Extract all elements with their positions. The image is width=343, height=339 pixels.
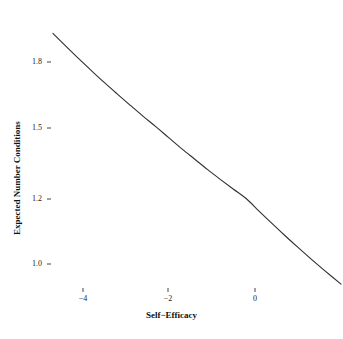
x-axis-ticks <box>83 288 255 292</box>
x-tick-label-minus-4: −4 <box>63 295 103 303</box>
data-series-line <box>53 33 341 284</box>
x-tick-label-minus-2: −2 <box>148 295 188 303</box>
y-tick-label-1-8: 1.8 <box>14 58 42 66</box>
x-tick-label-zero: 0 <box>235 295 275 303</box>
y-axis-title: Expected Number Conditions <box>13 121 22 235</box>
plot-area <box>0 0 343 339</box>
chart-figure: 1.8 1.5 1.2 1.0 −4 −2 0 Self−Efficacy Ex… <box>0 0 343 339</box>
y-tick-label-1-0: 1.0 <box>14 260 42 268</box>
x-axis-title: Self−Efficacy <box>0 311 343 320</box>
y-axis-ticks <box>47 62 51 264</box>
